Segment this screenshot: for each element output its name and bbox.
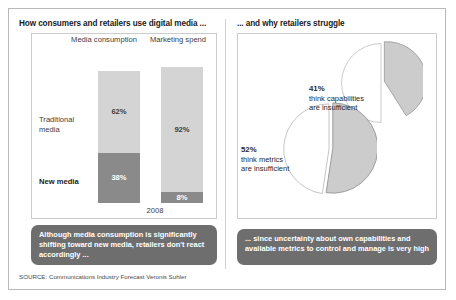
bar-value-traditional: 92% bbox=[174, 125, 189, 134]
pie-value-capabilities: 41% bbox=[309, 84, 325, 93]
bar-segment-new: 38% bbox=[98, 153, 140, 203]
right-panel-title: ... and why retailers struggle bbox=[237, 19, 345, 28]
bar-marketing-spend: 92% 8% bbox=[161, 67, 203, 203]
pie-label-metrics: 52% think metrics are insufficient bbox=[241, 145, 321, 174]
bar-media-consumption: 62% 38% bbox=[98, 71, 140, 203]
bar-value-new: 38% bbox=[111, 173, 126, 182]
row-label-new-media: New media bbox=[39, 177, 93, 187]
callout-right: ... since uncertainty about own capabili… bbox=[237, 229, 437, 265]
callout-left: Although media consumption is significan… bbox=[31, 225, 217, 265]
row-label-traditional-media: Traditional media bbox=[39, 115, 93, 134]
pie-text-metrics-line1: think metrics bbox=[241, 155, 283, 164]
pie-value-metrics: 52% bbox=[241, 145, 257, 154]
column-header-media-consumption: Media consumption bbox=[65, 35, 143, 44]
panel-divider bbox=[225, 19, 226, 269]
bar-value-traditional: 62% bbox=[111, 107, 126, 116]
column-header-marketing-spend: Marketing spend bbox=[149, 35, 207, 44]
bar-segment-traditional: 92% bbox=[161, 67, 203, 192]
bar-segment-traditional: 62% bbox=[98, 71, 140, 153]
pie-slice-value bbox=[326, 103, 377, 193]
pie-label-capabilities: 41% think capabilities are insufficient bbox=[309, 84, 401, 113]
bar-segment-new: 8% bbox=[161, 192, 203, 203]
axis-label-year: 2008 bbox=[134, 206, 176, 215]
pie-text-capabilities-line2: are insufficient bbox=[309, 103, 357, 112]
bar-value-new: 8% bbox=[177, 193, 188, 202]
source-line: SOURCE: Communications Industry Forecast… bbox=[19, 273, 186, 280]
left-panel-title: How consumers and retailers use digital … bbox=[19, 19, 206, 28]
slide-canvas: How consumers and retailers use digital … bbox=[8, 8, 446, 290]
pie-text-metrics-line2: are insufficient bbox=[241, 164, 289, 173]
pie-text-capabilities-line1: think capabilities bbox=[309, 94, 364, 103]
